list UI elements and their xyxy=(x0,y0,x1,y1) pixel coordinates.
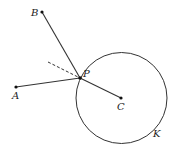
geometry-diagram: A B P C K xyxy=(0,0,178,155)
point-c-label: C xyxy=(117,101,125,112)
point-a-dot xyxy=(14,85,17,88)
point-b-dot xyxy=(40,10,43,13)
point-b-label: B xyxy=(30,7,38,18)
point-a-label: A xyxy=(11,90,19,101)
segment-bp xyxy=(42,12,80,78)
segment-pc xyxy=(80,78,121,98)
point-c-dot xyxy=(119,96,122,99)
segment-ap xyxy=(16,78,80,87)
circle-k-label: K xyxy=(152,128,161,139)
point-p-label: P xyxy=(82,68,90,79)
point-p-dot xyxy=(78,76,82,80)
